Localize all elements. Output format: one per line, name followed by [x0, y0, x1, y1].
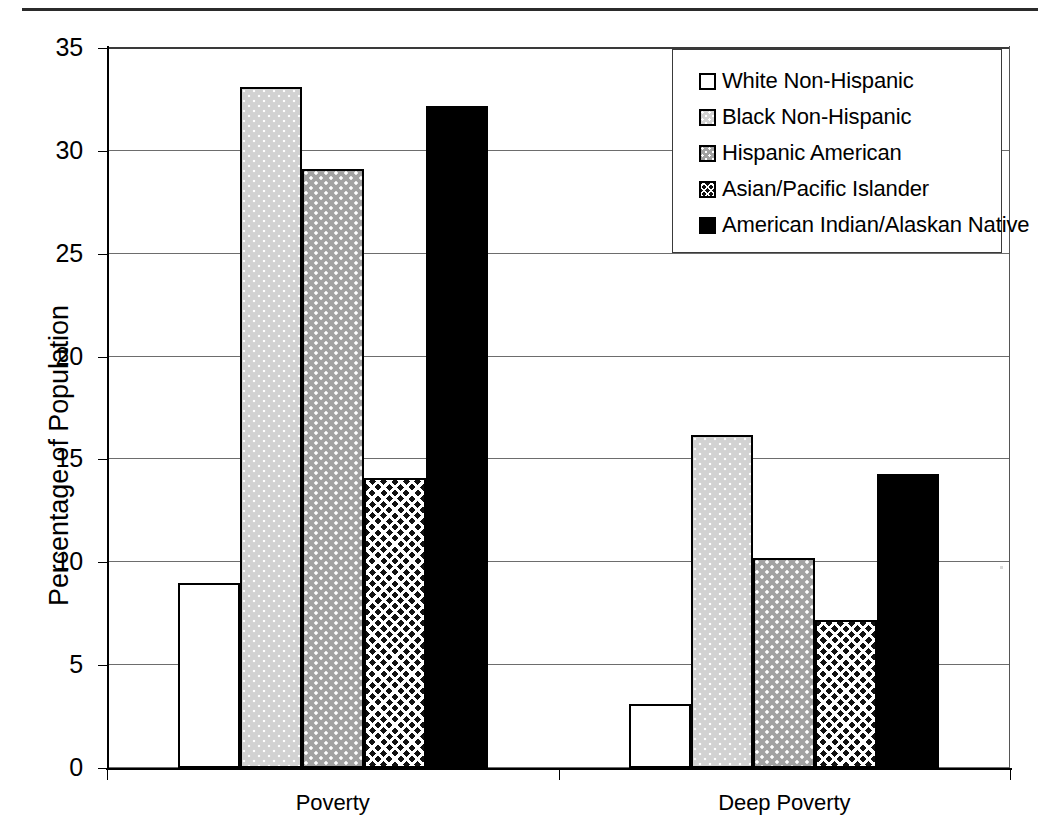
- legend-item: White Non-Hispanic: [673, 63, 1001, 99]
- bar: [178, 583, 240, 768]
- bar: [753, 558, 815, 768]
- legend-label: Hispanic American: [722, 140, 902, 166]
- chart-figure: 05101520253035 Percentage of Population …: [0, 0, 1060, 836]
- legend-swatch-icon: [699, 181, 716, 198]
- bar: [815, 620, 877, 768]
- bar: [877, 474, 939, 768]
- scan-speck: [1000, 566, 1003, 569]
- legend-label: Black Non-Hispanic: [722, 104, 911, 130]
- legend-swatch-icon: [699, 109, 716, 126]
- legend-item: Hispanic American: [673, 135, 1001, 171]
- bar: [629, 704, 691, 768]
- bar: [364, 478, 426, 768]
- x-tick-mark: [1010, 769, 1011, 780]
- x-category-label: Poverty: [183, 790, 483, 816]
- bar: [302, 169, 364, 768]
- legend-swatch-icon: [699, 217, 716, 234]
- legend-item: Asian/Pacific Islander: [673, 171, 1001, 207]
- legend-swatch-icon: [699, 145, 716, 162]
- bar: [426, 106, 488, 768]
- legend-item: Black Non-Hispanic: [673, 99, 1001, 135]
- bar: [240, 87, 302, 768]
- legend-swatch-icon: [699, 73, 716, 90]
- x-category-label: Deep Poverty: [634, 790, 934, 816]
- legend-label: Asian/Pacific Islander: [722, 176, 929, 202]
- x-tick-mark: [107, 769, 108, 780]
- bar: [691, 435, 753, 768]
- legend-item: American Indian/Alaskan Native: [673, 207, 1001, 243]
- chart-legend: White Non-HispanicBlack Non-HispanicHisp…: [672, 49, 1002, 253]
- legend-label: White Non-Hispanic: [722, 68, 914, 94]
- legend-label: American Indian/Alaskan Native: [722, 212, 1029, 238]
- x-tick-mark: [559, 769, 560, 780]
